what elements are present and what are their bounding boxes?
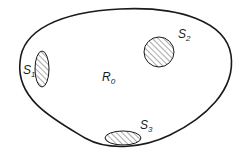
label-r0: R0	[102, 70, 116, 86]
subregion-s3	[105, 131, 141, 145]
label-s2: S2	[178, 27, 191, 43]
subregion-s2	[144, 37, 174, 67]
region-diagram: S1 S2 S3 R0	[0, 0, 244, 159]
subregion-s1	[35, 51, 49, 87]
label-s3: S3	[140, 118, 153, 134]
label-s1: S1	[23, 63, 35, 79]
outer-region-boundary	[20, 9, 232, 147]
